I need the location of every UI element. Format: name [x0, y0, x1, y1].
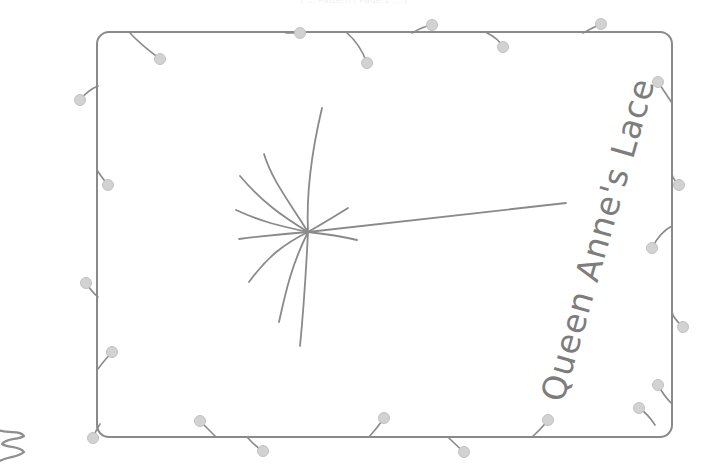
motif-ray-7 — [300, 232, 308, 346]
motif-ray-9 — [308, 232, 357, 240]
french-knot-4 — [596, 19, 607, 30]
french-knot-20 — [88, 433, 99, 444]
french-knot-1 — [362, 58, 373, 69]
motif-ray-3 — [236, 210, 308, 232]
french-knot-7 — [81, 278, 92, 289]
french-knot-18 — [543, 415, 554, 426]
french-knot-2 — [427, 20, 438, 31]
french-knot-21 — [295, 28, 306, 39]
french-knot-13 — [653, 380, 664, 391]
french-knot-10 — [674, 180, 685, 191]
french-knot-3 — [498, 42, 509, 53]
french-knot-5 — [75, 95, 86, 106]
french-knot-15 — [258, 446, 269, 457]
french-knot-0 — [155, 54, 166, 65]
french-knot-14 — [195, 416, 206, 427]
french-knot-16 — [379, 413, 390, 424]
motif-ray-1 — [264, 154, 308, 232]
motif-ray-0 — [308, 108, 322, 232]
motif-stem — [308, 203, 566, 232]
french-knot-19 — [634, 403, 645, 414]
french-knot-8 — [107, 347, 118, 358]
french-knot-17 — [459, 447, 470, 458]
french-knot-11 — [647, 243, 658, 254]
french-knot-12 — [678, 322, 689, 333]
pattern-page: ( ... Pattern / Page 1 ... ) Queen Anne'… — [0, 0, 708, 466]
queen-annes-lace-motif — [236, 108, 566, 346]
motif-ray-5 — [249, 232, 308, 282]
french-knot-6 — [103, 180, 114, 191]
corner-ornament-icon — [0, 428, 28, 466]
